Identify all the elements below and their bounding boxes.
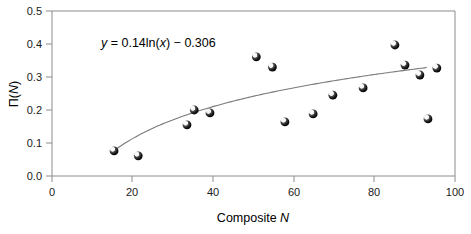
x-tick-label-1: 20 bbox=[126, 186, 138, 198]
x-tick-label-4: 80 bbox=[368, 186, 380, 198]
data-point bbox=[432, 64, 441, 73]
x-axis-ticks bbox=[52, 176, 455, 182]
data-point bbox=[183, 120, 192, 129]
x-axis-tick-labels: 0 20 40 60 80 100 bbox=[49, 186, 464, 198]
data-point bbox=[309, 110, 318, 119]
data-point bbox=[328, 91, 337, 100]
y-axis-ticks bbox=[46, 11, 52, 176]
y-tick-label-4: 0.4 bbox=[27, 38, 42, 50]
y-tick-label-5: 0.5 bbox=[27, 5, 42, 17]
y-axis-tick-labels: 0.0 0.1 0.2 0.3 0.4 0.5 bbox=[27, 5, 42, 182]
data-point bbox=[401, 61, 410, 70]
x-axis-title-prefix: Composite bbox=[217, 211, 280, 225]
x-tick-label-5: 100 bbox=[446, 186, 464, 198]
y-axis-title-prefix: Π( bbox=[7, 93, 21, 107]
data-point bbox=[424, 115, 433, 124]
y-tick-label-3: 0.3 bbox=[27, 71, 42, 83]
data-point bbox=[359, 83, 368, 92]
data-points bbox=[110, 41, 442, 161]
x-axis-title-italic: N bbox=[280, 211, 290, 225]
data-point bbox=[281, 117, 290, 126]
data-point bbox=[268, 63, 277, 72]
scatter-plot: 0.0 0.1 0.2 0.3 0.4 0.5 0 20 40 60 80 10… bbox=[0, 0, 471, 234]
data-point bbox=[134, 151, 143, 160]
data-point bbox=[206, 109, 215, 118]
data-point bbox=[110, 147, 119, 156]
equation-tail: ) − 0.306 bbox=[166, 36, 216, 50]
y-tick-label-1: 0.1 bbox=[27, 137, 42, 149]
y-axis-title: Π(N) bbox=[7, 81, 21, 107]
equation-rest: = 0.14ln( bbox=[107, 36, 160, 50]
data-point bbox=[416, 71, 425, 80]
data-point bbox=[391, 41, 400, 50]
x-tick-label-3: 60 bbox=[288, 186, 300, 198]
y-tick-label-2: 0.2 bbox=[27, 104, 42, 116]
chart-figure: 0.0 0.1 0.2 0.3 0.4 0.5 0 20 40 60 80 10… bbox=[0, 0, 471, 234]
data-point bbox=[252, 52, 261, 61]
x-tick-label-0: 0 bbox=[49, 186, 55, 198]
x-axis-title: Composite N bbox=[217, 211, 290, 225]
equation-annotation: y = 0.14ln(x) − 0.306 bbox=[100, 36, 216, 50]
trend-line bbox=[112, 68, 426, 152]
y-axis-title-suffix: ) bbox=[7, 81, 21, 85]
y-tick-label-0: 0.0 bbox=[27, 170, 42, 182]
data-point bbox=[190, 106, 199, 115]
x-tick-label-2: 40 bbox=[207, 186, 219, 198]
